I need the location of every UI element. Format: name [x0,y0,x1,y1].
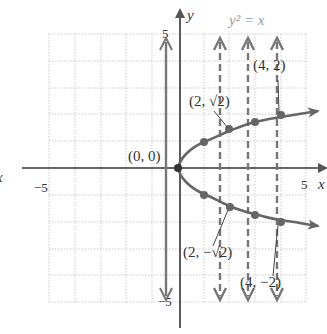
x-axis-label-left: x [0,169,3,185]
parabola-chart: y x x y² = x −5 5 5 −5 (0, 0 [0,0,327,334]
annotation-4-neg2: (4, −2) [240,274,281,291]
equation-label: y² = x [227,12,265,28]
annotation-4-2: (4, 2) [253,57,286,74]
annotation-2-neg-sqrt2: (2, −√2) [183,244,232,261]
annotation-origin: (0, 0) [128,148,161,165]
y-axis-label: y [185,7,194,23]
dashed-vertical-lines [214,38,283,300]
tick-x-5: 5 [301,177,308,192]
x-axis-label: x [317,176,325,192]
tick-x-neg5: −5 [34,180,48,195]
annotation-2-sqrt2: (2, √2) [189,93,230,110]
